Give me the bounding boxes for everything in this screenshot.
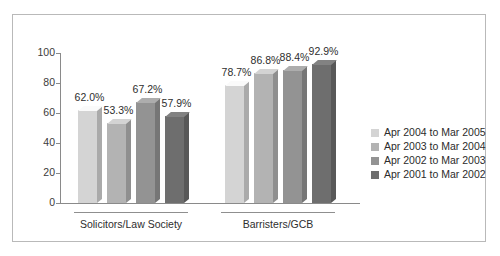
category-bracket: [74, 212, 188, 213]
bar-side-face: [273, 69, 278, 203]
bar: [225, 85, 244, 203]
legend-item: Apr 2001 to Mar 2002: [371, 168, 486, 182]
legend-item: Apr 2002 to Mar 2003: [371, 154, 486, 168]
bar: [165, 116, 184, 203]
bar-side-face: [97, 106, 102, 203]
bar-side-face: [126, 119, 131, 203]
y-axis-tick-mark: [56, 53, 60, 54]
bar-value-label: 57.9%: [162, 97, 192, 109]
y-axis-tick-label: 80: [43, 76, 55, 89]
bar-side-face: [184, 112, 189, 203]
plot-area: 020406080100 62.0%53.3%67.2%57.9%78.7%86…: [60, 53, 360, 203]
bar: [78, 110, 97, 203]
category-label: Barristers/GCB: [243, 218, 314, 231]
y-axis-tick-mark: [56, 143, 60, 144]
y-axis-tick-label: 100: [37, 46, 55, 59]
legend-swatch-icon: [371, 171, 379, 179]
y-axis-tick-label: 0: [49, 196, 55, 209]
y-axis-tick-mark: [56, 83, 60, 84]
bar-front-face: [78, 110, 97, 203]
legend-item: Apr 2003 to Mar 2004: [371, 140, 486, 154]
y-axis-tick-label: 40: [43, 136, 55, 149]
bar-value-label: 62.0%: [75, 91, 105, 103]
legend-label: Apr 2003 to Mar 2004: [384, 140, 486, 154]
bar-front-face: [254, 73, 273, 203]
bar: [136, 102, 155, 203]
chart-frame: 020406080100 62.0%53.3%67.2%57.9%78.7%86…: [12, 14, 486, 242]
y-axis-tick-mark: [56, 113, 60, 114]
bar-front-face: [165, 116, 184, 203]
y-axis-tick-label: 60: [43, 106, 55, 119]
bar-front-face: [283, 70, 302, 203]
bar-value-label: 86.8%: [251, 54, 281, 66]
chart-legend: Apr 2004 to Mar 2005Apr 2003 to Mar 2004…: [371, 126, 486, 182]
bar-side-face: [331, 60, 336, 203]
y-axis-tick-label: 20: [43, 166, 55, 179]
bar-front-face: [312, 64, 331, 203]
bar-front-face: [107, 123, 126, 203]
category-label: Solicitors/Law Society: [80, 218, 182, 231]
legend-label: Apr 2002 to Mar 2003: [384, 154, 486, 168]
bar: [107, 123, 126, 203]
bar-value-label: 67.2%: [133, 83, 163, 95]
y-axis-tick-mark: [56, 173, 60, 174]
bar-value-label: 53.3%: [104, 104, 134, 116]
legend-swatch-icon: [371, 143, 379, 151]
category-bracket: [221, 212, 335, 213]
bar: [254, 73, 273, 203]
legend-label: Apr 2004 to Mar 2005: [384, 126, 486, 140]
bar-side-face: [244, 81, 249, 203]
legend-item: Apr 2004 to Mar 2005: [371, 126, 486, 140]
legend-swatch-icon: [371, 157, 379, 165]
bar-front-face: [225, 85, 244, 203]
bar-side-face: [302, 66, 307, 203]
bar: [283, 70, 302, 203]
bar-value-label: 88.4%: [280, 51, 310, 63]
y-axis-tick-mark: [56, 203, 60, 204]
bar-side-face: [155, 98, 160, 203]
bar-front-face: [136, 102, 155, 203]
bar-value-label: 92.9%: [309, 45, 339, 57]
legend-swatch-icon: [371, 129, 379, 137]
x-axis-line: [60, 203, 360, 204]
legend-label: Apr 2001 to Mar 2002: [384, 168, 486, 182]
y-axis-line: [60, 53, 61, 203]
bar-value-label: 78.7%: [222, 66, 252, 78]
bar: [312, 64, 331, 203]
